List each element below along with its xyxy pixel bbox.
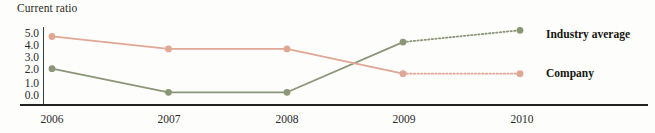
data-point-marker [517,70,524,77]
data-point-marker [165,45,172,52]
legend-label-industry-average: Industry average [546,28,630,40]
data-point-marker [165,89,172,96]
series-segment [287,42,403,92]
series-segment [52,69,169,93]
series-segment [403,30,520,42]
series-segment [52,36,169,48]
data-point-marker [517,27,524,34]
data-point-marker [49,33,56,40]
chart-figure: Current ratio 5.0 4.0 3.0 2.0 1.0 0.0 20… [0,0,655,133]
series-industry-average [49,27,524,96]
data-point-marker [284,89,291,96]
data-point-marker [400,39,407,46]
data-point-marker [284,45,291,52]
legend-label-company: Company [546,67,594,79]
series-segment [287,49,403,74]
series-company [49,33,524,77]
data-point-marker [400,70,407,77]
data-point-marker [49,65,56,72]
